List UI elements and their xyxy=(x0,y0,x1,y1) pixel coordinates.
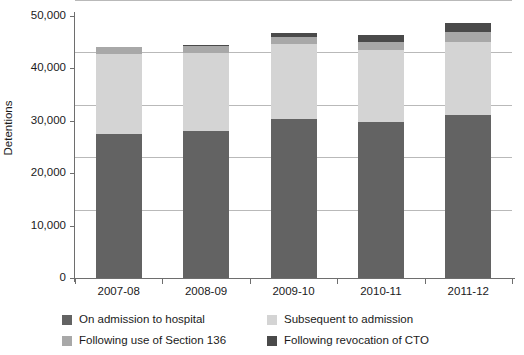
bar-segment xyxy=(445,32,491,42)
x-axis-tick-mark xyxy=(75,279,76,284)
y-axis-tick-label-wrap: 10,000 xyxy=(0,220,66,232)
bar-segment xyxy=(358,50,404,122)
legend-swatch-cto xyxy=(267,336,277,346)
legend-item-label: Subsequent to admission xyxy=(284,314,413,326)
y-axis-tick-label-wrap: 30,000 xyxy=(0,115,66,127)
x-axis-tick-label-2011-12: 2011-12 xyxy=(425,285,512,297)
y-axis-tick-label: 30,000 xyxy=(0,115,66,127)
legend-item[interactable]: Subsequent to admission xyxy=(267,314,502,326)
bar-segment xyxy=(445,23,491,32)
detentions-stacked-bar-chart: Detentions 010,00020,00030,00040,00050,0… xyxy=(0,0,524,355)
bar-segment xyxy=(271,44,317,119)
legend-swatch-section-136 xyxy=(62,336,72,346)
x-axis-tick-mark xyxy=(425,279,426,284)
x-axis-line xyxy=(74,278,515,279)
x-axis-tick-mark xyxy=(337,279,338,284)
legend-item[interactable]: Following revocation of CTO xyxy=(267,335,502,347)
gridline xyxy=(75,0,512,1)
x-axis-tick-mark xyxy=(162,279,163,284)
bar-2007-08 xyxy=(96,16,142,278)
y-axis-tick-label-wrap: 0 xyxy=(0,272,66,284)
y-axis-tick-label: 50,000 xyxy=(0,10,66,22)
bar-2008-09 xyxy=(183,16,229,278)
legend-item[interactable]: Following use of Section 136 xyxy=(62,335,267,347)
x-axis-tick-mark xyxy=(512,279,513,284)
x-axis-tick-label-2008-09: 2008-09 xyxy=(162,285,249,297)
legend-item-label: On admission to hospital xyxy=(79,314,205,326)
bar-segment xyxy=(271,119,317,278)
x-axis-tick-label-2007-08: 2007-08 xyxy=(75,285,162,297)
bar-segment xyxy=(96,47,142,53)
legend-item-label: Following use of Section 136 xyxy=(79,335,226,347)
bar-segment xyxy=(358,35,404,42)
chart-legend: On admission to hospitalSubsequent to ad… xyxy=(62,309,502,351)
y-axis-tick-label-wrap: 20,000 xyxy=(0,167,66,179)
y-axis-tick-label: 10,000 xyxy=(0,220,66,232)
bar-segment xyxy=(183,45,229,46)
x-axis-tick-label-2010-11: 2010-11 xyxy=(337,285,424,297)
bar-segment xyxy=(445,42,491,115)
y-axis-tick-label-wrap: 40,000 xyxy=(0,62,66,74)
y-axis-tick-label: 20,000 xyxy=(0,167,66,179)
bar-2010-11 xyxy=(358,16,404,278)
bar-2009-10 xyxy=(271,16,317,278)
legend-item-label: Following revocation of CTO xyxy=(284,335,429,347)
y-axis-tick-label-wrap: 50,000 xyxy=(0,10,66,22)
bar-segment xyxy=(183,46,229,53)
bar-segment xyxy=(96,134,142,278)
legend-swatch-on-admission xyxy=(62,315,72,325)
bar-segment xyxy=(445,115,491,278)
legend-item[interactable]: On admission to hospital xyxy=(62,314,267,326)
bar-segment xyxy=(271,33,317,37)
bar-segment xyxy=(358,42,404,50)
bar-segment xyxy=(358,122,404,278)
bar-2011-12 xyxy=(445,16,491,278)
x-axis-tick-mark xyxy=(250,279,251,284)
bar-segment xyxy=(271,37,317,44)
legend-swatch-subsequent xyxy=(267,315,277,325)
plot-area xyxy=(75,16,512,278)
y-axis-tick-label: 40,000 xyxy=(0,62,66,74)
x-axis-tick-label-2009-10: 2009-10 xyxy=(250,285,337,297)
bar-segment xyxy=(96,54,142,134)
bar-segment xyxy=(183,131,229,278)
bar-segment xyxy=(183,53,229,131)
y-axis-tick-label: 0 xyxy=(0,272,66,284)
